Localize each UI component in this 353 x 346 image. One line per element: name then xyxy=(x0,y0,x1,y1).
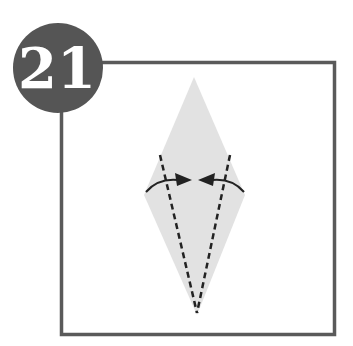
paper-shape xyxy=(144,77,245,315)
step-number: 21 xyxy=(18,35,96,101)
step-diagram: 21 xyxy=(0,0,353,346)
